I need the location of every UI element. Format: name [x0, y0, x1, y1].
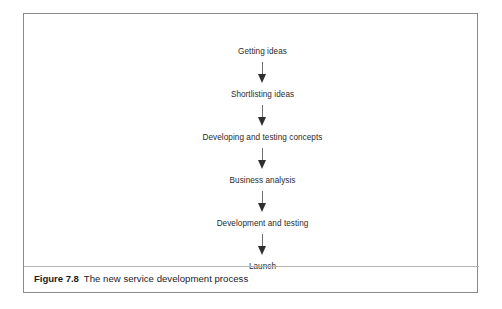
- flow-step-4: Business analysis: [35, 175, 490, 186]
- arrow-head: [258, 74, 266, 83]
- caption-divider: [24, 266, 479, 267]
- arrow-head: [258, 246, 266, 255]
- figure-caption-label: Figure 7.8: [34, 273, 79, 284]
- flow-arrow-down-icon-5: [258, 234, 267, 256]
- figure-caption-text: The new service development process: [84, 273, 248, 284]
- arrow-head: [258, 160, 266, 169]
- figure-frame: Getting ideas Shortlisting ideas Develop…: [23, 13, 478, 293]
- flow-arrow-down-icon-1: [258, 62, 267, 84]
- flow-step-5: Development and testing: [35, 218, 490, 229]
- flowchart: Getting ideas Shortlisting ideas Develop…: [24, 14, 479, 262]
- flow-step-1: Getting ideas: [35, 46, 490, 57]
- flow-step-3: Developing and testing concepts: [35, 132, 490, 143]
- flow-arrow-down-icon-4: [258, 191, 267, 213]
- flow-arrow-down-icon-2: [258, 105, 267, 127]
- figure-caption: Figure 7.8The new service development pr…: [34, 272, 474, 286]
- flowchart-column: Getting ideas Shortlisting ideas Develop…: [35, 14, 490, 262]
- arrow-head: [258, 203, 266, 212]
- flow-arrow-down-icon-3: [258, 148, 267, 170]
- flow-step-2: Shortlisting ideas: [35, 89, 490, 100]
- arrow-head: [258, 117, 266, 126]
